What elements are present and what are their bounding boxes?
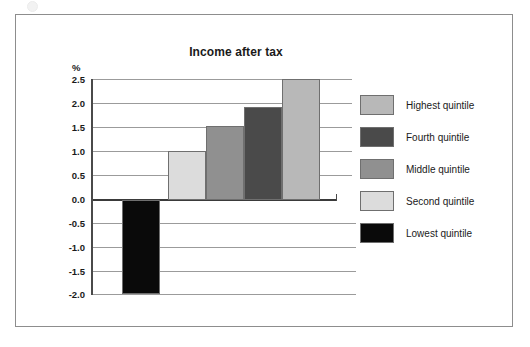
y-tick-label--2.0: -2.0 [45,289,85,300]
bar-fourth-quintile[interactable] [244,107,282,200]
legend-item-middle-quintile[interactable]: Middle quintile [360,153,510,185]
legend-label-highest-quintile: Highest quintile [406,100,474,111]
bar-second-quintile[interactable] [168,151,206,200]
gridline--2.0 [91,294,356,295]
legend-swatch-middle-quintile [360,159,394,179]
bar-lowest-quintile[interactable] [122,200,160,294]
legend-label-lowest-quintile: Lowest quintile [406,228,472,239]
figure-frame: Income after tax % 2.5 2.0 1.5 1.0 0.5 0… [15,14,513,327]
y-tick-label-0.5: 0.5 [45,170,85,181]
legend-label-fourth-quintile: Fourth quintile [406,132,469,143]
legend-swatch-second-quintile [360,191,394,211]
y-tick-label-1.5: 1.5 [45,122,85,133]
scan-artifact [27,1,38,12]
chart-title: Income after tax [156,45,316,59]
x-axis-end-tick [336,194,337,201]
y-axis-line [91,79,93,295]
y-tick-label--1.5: -1.5 [45,266,85,277]
y-tick-label-1.0: 1.0 [45,146,85,157]
y-tick-label-2.5: 2.5 [45,74,85,85]
legend-swatch-lowest-quintile [360,223,394,243]
y-tick-label-2.0: 2.0 [45,98,85,109]
bar-highest-quintile[interactable] [282,79,320,200]
legend-label-second-quintile: Second quintile [406,196,474,207]
legend-item-fourth-quintile[interactable]: Fourth quintile [360,121,510,153]
legend-item-lowest-quintile[interactable]: Lowest quintile [360,217,510,249]
legend-label-middle-quintile: Middle quintile [406,164,470,175]
y-tick-label--1.0: -1.0 [45,242,85,253]
y-tick-label--0.5: -0.5 [45,218,85,229]
bar-middle-quintile[interactable] [206,126,244,200]
legend-item-highest-quintile[interactable]: Highest quintile [360,89,510,121]
legend-swatch-fourth-quintile [360,127,394,147]
legend-swatch-highest-quintile [360,95,394,115]
y-tick-label-0.0: 0.0 [45,194,85,205]
y-axis-unit-label: % [72,62,80,73]
legend-item-second-quintile[interactable]: Second quintile [360,185,510,217]
chart-legend: Highest quintile Fourth quintile Middle … [360,89,510,249]
chart-plot-area: Income after tax % 2.5 2.0 1.5 1.0 0.5 0… [16,15,514,328]
